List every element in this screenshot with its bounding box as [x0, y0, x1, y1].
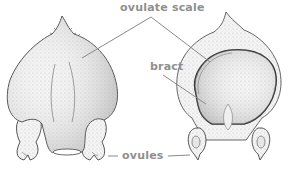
label-ovulate-scale: ovulate scale — [120, 2, 205, 13]
label-bract: bract — [150, 61, 184, 72]
diagram-drawing — [0, 0, 299, 173]
right-scale-view — [177, 12, 281, 160]
left-scale-view — [7, 16, 117, 160]
ovules-leader-right — [168, 155, 190, 156]
label-ovules: ovules — [122, 150, 164, 161]
ovulate-scale-diagram: ovulate scale bract ovules — [0, 0, 299, 173]
left-ovule-left — [17, 116, 42, 160]
